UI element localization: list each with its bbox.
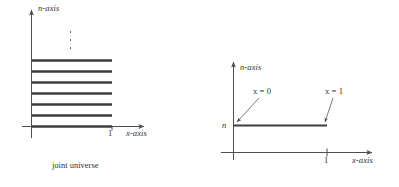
- left-panel-bars: [32, 61, 112, 127]
- annotation-x-equals-0: x = 0: [253, 86, 271, 96]
- right-n-axis-label: n-axis: [240, 62, 261, 72]
- left-panel-caption: joint universe: [52, 160, 99, 170]
- right-panel-axes: [221, 62, 372, 160]
- annotation-x-equals-1: x = 1: [325, 86, 343, 96]
- left-x-axis-label: x-axis: [126, 128, 147, 138]
- right-n-level-label: n: [222, 120, 226, 130]
- left-x-tick-label: 1: [108, 128, 112, 138]
- right-x-axis-label: x-axis: [352, 155, 373, 165]
- leader-x-equals-1: [325, 98, 333, 122]
- right-x-tick-label: 1: [324, 155, 328, 165]
- figure-container: n-axis 1 x-axis joint universe n-axis n …: [0, 0, 399, 187]
- vertical-ellipsis-icon: [69, 31, 72, 49]
- leader-x-equals-0: [237, 98, 259, 122]
- left-panel-axes: [22, 10, 144, 138]
- right-panel-annotation-leaders: [237, 98, 333, 122]
- left-n-axis-label: n-axis: [38, 3, 59, 13]
